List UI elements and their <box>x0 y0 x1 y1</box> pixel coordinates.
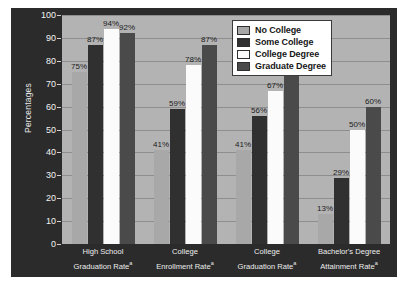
legend-label: Some College <box>255 37 313 47</box>
legend-item[interactable]: Graduate Degree <box>237 60 326 72</box>
bar-groups: 75%87%94%92%41%59%78%87%41%56%67%74%13%2… <box>62 15 390 244</box>
bar[interactable] <box>236 150 251 244</box>
bar[interactable] <box>334 178 349 244</box>
bar[interactable] <box>284 75 299 244</box>
bar[interactable] <box>366 107 381 244</box>
bar-wrapper: 78% <box>186 15 201 244</box>
footnote-marker: a <box>375 260 378 266</box>
legend-swatch-icon <box>237 62 250 71</box>
bar-value-label: 50% <box>349 120 365 129</box>
bar[interactable] <box>252 116 267 244</box>
y-axis-tick-80: 80 <box>24 56 56 66</box>
bar[interactable] <box>350 130 365 245</box>
bar-wrapper: 87% <box>88 15 103 244</box>
x-axis-label-line1: High School <box>63 247 143 258</box>
bar[interactable] <box>154 150 169 244</box>
bar-value-label: 41% <box>235 140 251 149</box>
bar-wrapper: 60% <box>366 15 381 244</box>
x-axis-category-labels: High SchoolGraduation RateaCollegeEnroll… <box>62 247 390 272</box>
bars-row: 41%59%78%87% <box>144 15 226 244</box>
bar[interactable] <box>268 91 283 244</box>
x-axis-label-line2: Graduation Ratea <box>63 258 143 272</box>
bar-wrapper: 29% <box>334 15 349 244</box>
bar-value-label: 29% <box>333 168 349 177</box>
bar[interactable] <box>170 109 185 244</box>
bar-value-label: 59% <box>169 99 185 108</box>
y-axis-tick-0: 0 <box>24 239 56 249</box>
legend-label: College Degree <box>255 49 319 59</box>
bar-value-label: 75% <box>71 62 87 71</box>
legend: No CollegeSome CollegeCollege DegreeGrad… <box>232 20 332 76</box>
bar-wrapper: 75% <box>72 15 87 244</box>
bar[interactable] <box>120 33 135 244</box>
bar-value-label: 94% <box>103 19 119 28</box>
bar-wrapper: 87% <box>202 15 217 244</box>
x-axis-label-line1: College <box>227 247 307 258</box>
y-axis-tick-90: 90 <box>24 33 56 43</box>
bar-wrapper: 50% <box>350 15 365 244</box>
y-axis-tick-50: 50 <box>24 125 56 135</box>
x-axis-label-line1: Bachelor's Degree <box>309 247 389 258</box>
bar-value-label: 87% <box>201 35 217 44</box>
bar[interactable] <box>202 45 217 244</box>
legend-swatch-icon <box>237 26 250 35</box>
bar-group: 75%87%94%92% <box>62 15 144 244</box>
x-axis-label-line2: Enrollment Ratea <box>145 258 225 272</box>
legend-item[interactable]: College Degree <box>237 48 326 60</box>
footnote-marker: a <box>129 260 132 266</box>
x-axis-label: CollegeGraduation Ratea <box>226 247 308 272</box>
x-axis-label: Bachelor's DegreeAttainment Ratea <box>308 247 390 272</box>
bar-wrapper: 41% <box>154 15 169 244</box>
bar-wrapper: 59% <box>170 15 185 244</box>
bar-value-label: 13% <box>317 204 333 213</box>
x-axis-label: High SchoolGraduation Ratea <box>62 247 144 272</box>
bar-wrapper: 92% <box>120 15 135 244</box>
x-axis-label-line1: College <box>145 247 225 258</box>
bar[interactable] <box>88 45 103 244</box>
plot-area: 75%87%94%92%41%59%78%87%41%56%67%74%13%2… <box>62 15 390 244</box>
y-axis-tick-100: 100 <box>24 10 56 20</box>
x-axis-label-line2: Attainment Ratea <box>309 258 389 272</box>
y-axis-tick-30: 30 <box>24 170 56 180</box>
bar-group: 41%59%78%87% <box>144 15 226 244</box>
bars-row: 75%87%94%92% <box>62 15 144 244</box>
bar[interactable] <box>104 29 119 244</box>
bar-value-label: 56% <box>251 106 267 115</box>
y-axis-tick-labels: 1009080706050403020100 <box>29 15 61 244</box>
x-axis-label: CollegeEnrollment Ratea <box>144 247 226 272</box>
legend-item[interactable]: Some College <box>237 36 326 48</box>
x-axis-label-line2: Graduation Ratea <box>227 258 307 272</box>
footnote-marker: a <box>293 260 296 266</box>
bar[interactable] <box>72 72 87 244</box>
y-axis-tick-70: 70 <box>24 79 56 89</box>
bar-value-label: 60% <box>365 97 381 106</box>
y-axis-tick-40: 40 <box>24 147 56 157</box>
bar-value-label: 67% <box>267 81 283 90</box>
bar-wrapper: 94% <box>104 15 119 244</box>
bar-value-label: 92% <box>119 23 135 32</box>
legend-swatch-icon <box>237 50 250 59</box>
legend-swatch-icon <box>237 38 250 47</box>
legend-label: No College <box>255 25 301 35</box>
bar[interactable] <box>186 65 201 244</box>
chart-frame: Percentages 1009080706050403020100 75%87… <box>11 8 397 277</box>
bar[interactable] <box>318 214 333 244</box>
y-axis-tick-60: 60 <box>24 102 56 112</box>
footnote-marker: a <box>211 260 214 266</box>
legend-label: Graduate Degree <box>255 61 326 71</box>
y-axis-tick-20: 20 <box>24 193 56 203</box>
bar-value-label: 78% <box>185 55 201 64</box>
bar-value-label: 41% <box>153 140 169 149</box>
legend-item[interactable]: No College <box>237 24 326 36</box>
y-axis-tick-10: 10 <box>24 216 56 226</box>
bar-value-label: 87% <box>87 35 103 44</box>
